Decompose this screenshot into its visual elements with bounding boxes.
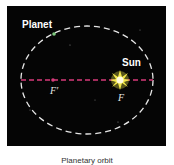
- sun-focus-label: F: [118, 93, 124, 103]
- figure-caption: Planetary orbit: [0, 156, 174, 165]
- planet-icon: [52, 32, 56, 36]
- empty-focus-label: F′: [50, 86, 58, 96]
- sun-label: Sun: [122, 58, 141, 68]
- sun-icon: [110, 70, 130, 90]
- planet-label: Planet: [22, 20, 52, 30]
- empty-focus-dot: [51, 78, 55, 82]
